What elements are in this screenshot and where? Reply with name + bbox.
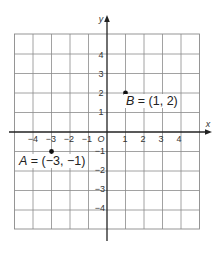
x-tick-label: 4 bbox=[176, 134, 181, 144]
x-tick-label: −4 bbox=[28, 134, 38, 144]
coordinate-plane bbox=[0, 0, 216, 256]
y-tick-label: 2 bbox=[98, 88, 103, 98]
y-tick-label: 3 bbox=[98, 69, 103, 79]
x-axis-arrow-icon bbox=[205, 129, 212, 135]
point-a-coords: = (−3, −1) bbox=[27, 154, 85, 168]
y-tick-label: 4 bbox=[98, 50, 103, 60]
point-b-coords: = (1, 2) bbox=[134, 94, 177, 108]
point-b-label: B = (1, 2) bbox=[124, 94, 180, 108]
y-tick-label: 1 bbox=[98, 107, 103, 117]
y-axis-arrow-icon bbox=[104, 15, 110, 22]
x-tick-label: 1 bbox=[122, 134, 127, 144]
x-tick-label: 3 bbox=[158, 134, 163, 144]
x-tick-label: −1 bbox=[82, 134, 92, 144]
y-tick-label: −1 bbox=[95, 146, 105, 156]
y-tick-label: −2 bbox=[95, 165, 105, 175]
x-axis-label: x bbox=[206, 119, 211, 129]
point-a-label: A = (−3, −1) bbox=[17, 154, 87, 168]
y-tick-label: −4 bbox=[95, 203, 105, 213]
x-tick-label: 2 bbox=[140, 134, 145, 144]
y-tick-label: −3 bbox=[95, 184, 105, 194]
origin-label: O bbox=[97, 134, 104, 144]
x-tick-label: −3 bbox=[46, 134, 56, 144]
y-axis-label: y bbox=[99, 14, 104, 24]
x-tick-label: −2 bbox=[64, 134, 74, 144]
